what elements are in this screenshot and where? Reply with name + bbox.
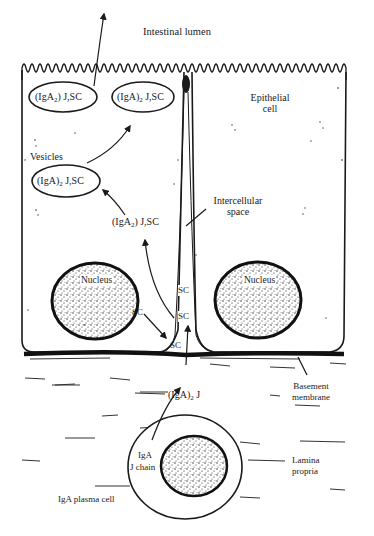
label-text: ) J,SC (134, 216, 158, 227)
pointer-basement-membrane (298, 357, 307, 375)
transport-arrows (87, 14, 307, 440)
nucleus-right (215, 262, 301, 338)
pointer-intercellular-space (186, 209, 206, 226)
arrow-complex-to-vesicle (103, 190, 125, 215)
label-text: (IgA) (168, 389, 190, 400)
label-text: (IgA (35, 91, 54, 102)
label-vesicle-top-right: (IgA)2 J,SC (117, 91, 164, 102)
label-nucleus-right: Nucleus (243, 275, 276, 286)
label-epithelial-cell: Epithelial cell (246, 92, 294, 114)
label-line: space (208, 206, 268, 217)
label-line: Lamina (292, 455, 320, 466)
label-sc-space-middle: SC (178, 311, 189, 322)
arrow-dimer-up (186, 326, 188, 365)
label-vesicle-top-left: (IgA2) J,SC (35, 91, 82, 102)
label-line: Basement (282, 381, 340, 392)
label-lamina-propria: Lamina propria (292, 455, 320, 477)
label-text: (IgA) (37, 175, 59, 186)
label-vesicles: Vesicles (30, 151, 63, 162)
plasma-cell-nucleus (161, 436, 227, 496)
label-nucleus-left: Nucleus (80, 275, 113, 286)
label-text: J (194, 389, 200, 400)
arrow-sc-to-membrane (144, 314, 166, 338)
label-text: J,SC (63, 175, 84, 186)
label-basement-membrane: Basement membrane (282, 381, 340, 403)
basement-membrane (24, 352, 344, 355)
label-intestinal-lumen: Intestinal lumen (143, 26, 211, 37)
arrow-exocytosis (94, 14, 104, 86)
label-line: Intercellular (208, 195, 268, 206)
label-text: (IgA (112, 216, 131, 227)
tight-junction (182, 75, 190, 93)
label-text: ) J,SC (57, 91, 81, 102)
label-line: propria (292, 466, 320, 477)
arrow-sc-to-complex (145, 240, 174, 318)
label-cytoplasm-complex: (IgA2) J,SC (112, 216, 159, 227)
label-vesicle-middle: (IgA)2 J,SC (37, 175, 84, 186)
label-line: Epithelial (246, 92, 294, 103)
label-iga: IgA (138, 450, 152, 461)
label-line: cell (246, 103, 294, 114)
arrow-vesicle-to-vesicle (87, 126, 130, 163)
label-text: (IgA) (117, 91, 139, 102)
label-iga-plasma-cell: IgA plasma cell (58, 494, 114, 505)
label-dimer: (IgA)2 J (168, 389, 200, 400)
label-sc-space-bottom: SC (170, 340, 181, 351)
label-line: membrane (282, 392, 340, 403)
label-sc-left: SC (132, 307, 143, 318)
label-j-chain: J chain (130, 462, 155, 473)
label-sc-space-upper: SC (178, 285, 189, 296)
label-text: J,SC (143, 91, 164, 102)
label-intercellular-space: Intercellular space (208, 195, 268, 217)
